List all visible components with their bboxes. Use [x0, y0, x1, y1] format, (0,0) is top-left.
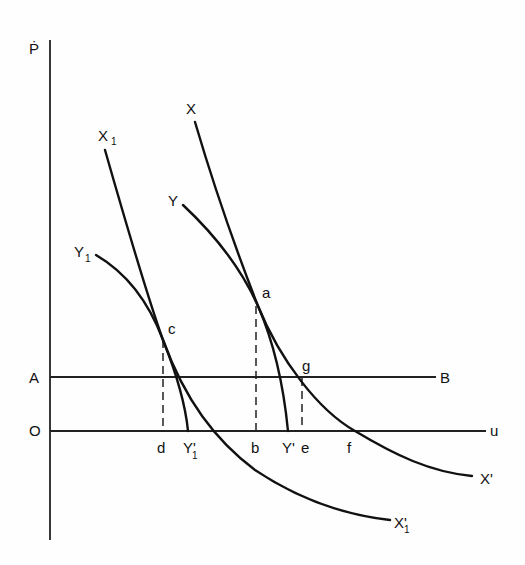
label-Y: Y [168, 192, 178, 209]
origin-label: O [29, 422, 41, 439]
label-Y1: Y [74, 243, 84, 260]
point-a-label: a [262, 284, 271, 301]
y-axis-label: Ṗ [29, 40, 39, 57]
point-g-label: g [302, 357, 310, 374]
label-B: B [440, 369, 450, 386]
x-axis-label: u [490, 422, 498, 439]
label-A: A [29, 369, 39, 386]
curve-Y [183, 205, 288, 431]
curve-Y1 [96, 255, 188, 431]
curve-X [195, 122, 472, 476]
label-X-prime: X' [480, 470, 493, 487]
label-X1: X [98, 127, 108, 144]
label-X: X [186, 100, 196, 117]
mark-d: d [157, 439, 165, 456]
label-X1-prime-sub: 1 [404, 524, 410, 535]
label-X1-sub: 1 [111, 136, 117, 147]
point-c-label: c [168, 320, 176, 337]
mark-b: b [251, 439, 259, 456]
phase-diagram: Ṗ u O A B X Y X 1 Y 1 X' Y' X' 1 Y' 1 a … [0, 0, 525, 565]
diagram-canvas: Ṗ u O A B X Y X 1 Y 1 X' Y' X' 1 Y' 1 a … [0, 0, 525, 565]
label-Y-prime: Y' [282, 439, 295, 456]
mark-e: e [301, 439, 309, 456]
curve-X1 [105, 150, 390, 520]
label-Y1-prime-sub: 1 [192, 450, 198, 461]
mark-f: f [347, 439, 352, 456]
label-Y1-sub: 1 [85, 253, 91, 264]
